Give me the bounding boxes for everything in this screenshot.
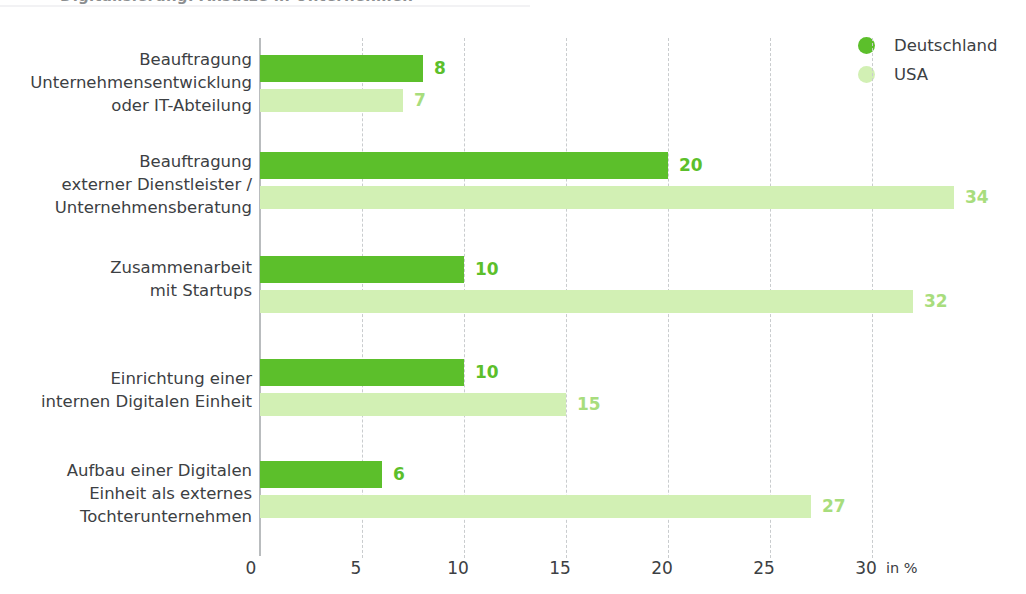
bar-deutschland-2[interactable] [260,152,668,179]
bar-deutschland-1[interactable] [260,55,423,82]
x-axis-tick-15: 15 [549,558,571,578]
x-axis-tick-5: 5 [351,558,362,578]
x-axis-tick-0: 0 [246,558,257,578]
bar-value-usa-1: 7 [414,90,426,110]
bar-usa-4[interactable] [260,393,566,416]
bar-value-deutschland-1: 8 [434,58,446,78]
bar-value-deutschland-5: 6 [393,464,405,484]
category-label-1: Beauftragung Unternehmensentwicklung ode… [30,48,252,117]
bar-deutschland-3[interactable] [260,256,464,283]
x-axis-tick-30: 30 [855,558,877,578]
bar-value-usa-3: 32 [924,291,948,311]
bar-usa-2[interactable] [260,186,954,209]
x-axis-tick-25: 25 [753,558,775,578]
bar-usa-5[interactable] [260,495,811,518]
bar-usa-3[interactable] [260,290,913,313]
bar-value-usa-2: 34 [965,187,989,207]
bar-value-usa-4: 15 [577,394,601,414]
bar-value-deutschland-2: 20 [679,155,703,175]
category-label-5: Aufbau einer Digitalen Einheit als exter… [67,459,252,528]
category-label-4: Einrichtung einer internen Digitalen Ein… [41,367,252,413]
bar-value-deutschland-4: 10 [475,362,499,382]
plot-area: 0 5 10 15 20 25 30 in % Beauftragung Unt… [0,0,1026,594]
bar-value-usa-5: 27 [822,496,846,516]
x-axis-unit-label: in % [886,560,918,576]
bar-value-deutschland-3: 10 [475,259,499,279]
x-axis-tick-20: 20 [651,558,673,578]
bar-deutschland-5[interactable] [260,461,382,488]
bar-deutschland-4[interactable] [260,359,464,386]
bar-chart: Digitalisierung: Ansätze in Unternehmen … [0,0,1026,594]
bar-usa-1[interactable] [260,89,403,112]
category-label-2: Beauftragung externer Dienstleister / Un… [55,150,252,219]
x-axis-tick-10: 10 [447,558,469,578]
category-label-3: Zusammenarbeit mit Startups [110,256,252,302]
